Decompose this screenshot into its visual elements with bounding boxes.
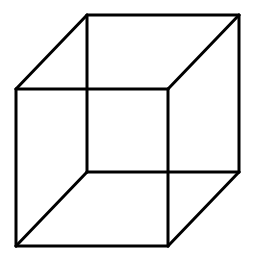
cube-edge-front_br-back_br	[168, 172, 239, 246]
cube-edge-front_tl-back_tl	[16, 15, 87, 89]
necker-cube-diagram	[0, 0, 257, 260]
cube-edges	[16, 15, 239, 246]
cube-edge-front_bl-back_bl	[16, 172, 87, 246]
cube-edge-front_tr-back_tr	[168, 15, 239, 89]
